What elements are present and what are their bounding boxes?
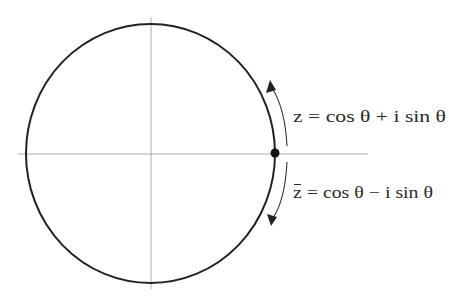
arrow-head-down-icon [267, 214, 277, 226]
clockwise-arrow [273, 162, 287, 218]
arrow-head-up-icon [266, 80, 276, 93]
z-label: z = cos θ + i sin θ [293, 107, 446, 126]
unit-circle [26, 24, 275, 283]
point-on-circle [271, 149, 280, 158]
z-conjugate-expression: = cos θ − i sin θ [302, 183, 433, 202]
unit-circle-diagram: z = cos θ + i sin θ z = cos θ − i sin θ [0, 0, 449, 298]
z-conjugate-label: z = cos θ − i sin θ [293, 183, 433, 202]
